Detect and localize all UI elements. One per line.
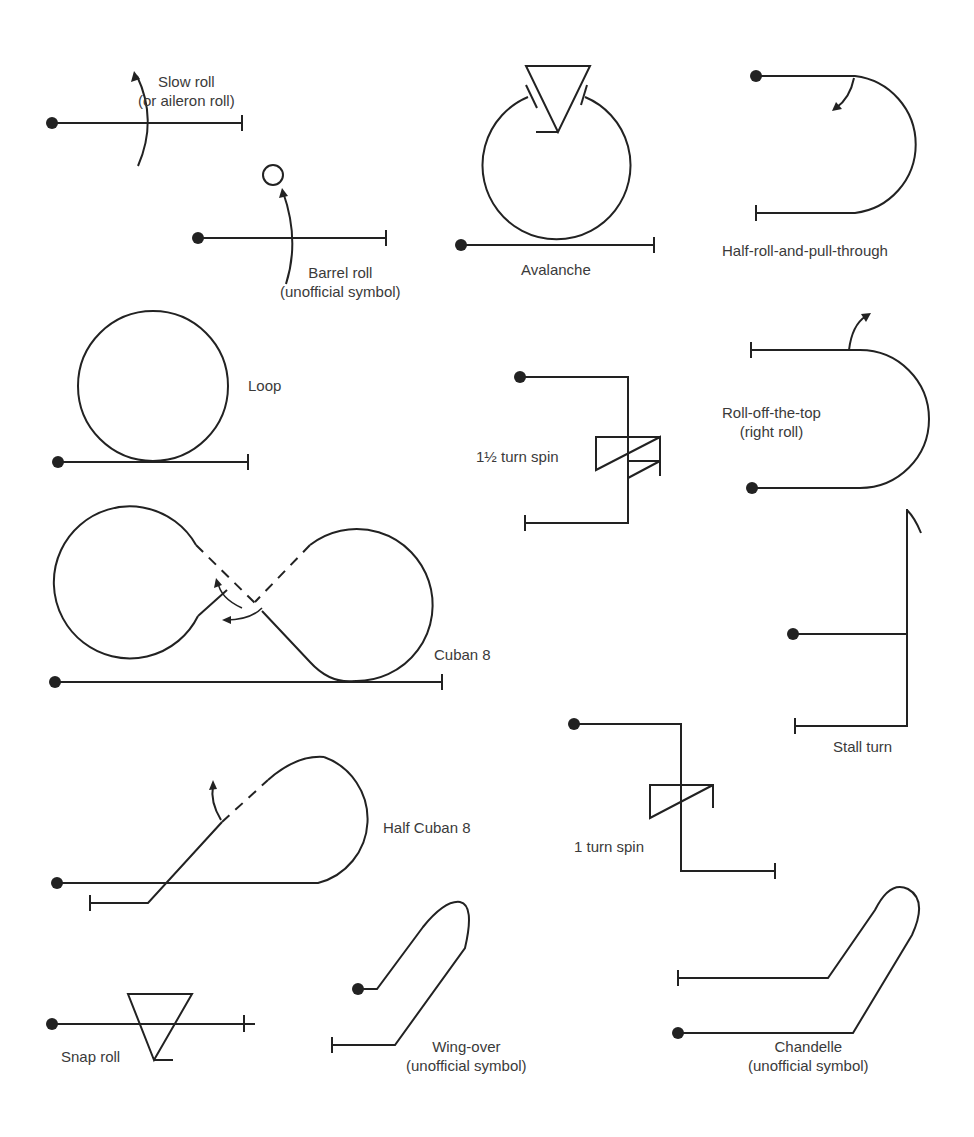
half-cuban-8-symbol [51,757,368,911]
chandelle-label: Chandelle (unofficial symbol) [748,1037,869,1075]
cuban-8-label: Cuban 8 [434,645,491,664]
slow-roll-label: Slow roll (or aileron roll) [138,72,235,110]
stall-turn-symbol [787,509,921,734]
loop-label: Loop [248,376,281,395]
one-and-half-turn-spin-label: 1½ turn spin [476,447,559,466]
one-turn-spin-label: 1 turn spin [574,837,644,856]
half-roll-and-pull-through-symbol [750,70,916,221]
roll-off-the-top-label: Roll-off-the-top (right roll) [722,403,821,441]
maneuver-diagram [0,0,974,1137]
half-roll-and-pull-through-label: Half-roll-and-pull-through [722,241,888,260]
snap-roll-label: Snap roll [61,1047,120,1066]
loop-symbol [52,311,248,470]
avalanche-label: Avalanche [521,260,591,279]
chandelle-symbol [672,887,919,1039]
barrel-roll-label: Barrel roll (unofficial symbol) [280,263,401,301]
wing-over-label: Wing-over (unofficial symbol) [406,1037,527,1075]
half-cuban-8-label: Half Cuban 8 [383,818,471,837]
avalanche-symbol [455,66,654,253]
wing-over-symbol [332,902,469,1053]
cuban-8-symbol [49,506,442,690]
stall-turn-label: Stall turn [833,737,892,756]
